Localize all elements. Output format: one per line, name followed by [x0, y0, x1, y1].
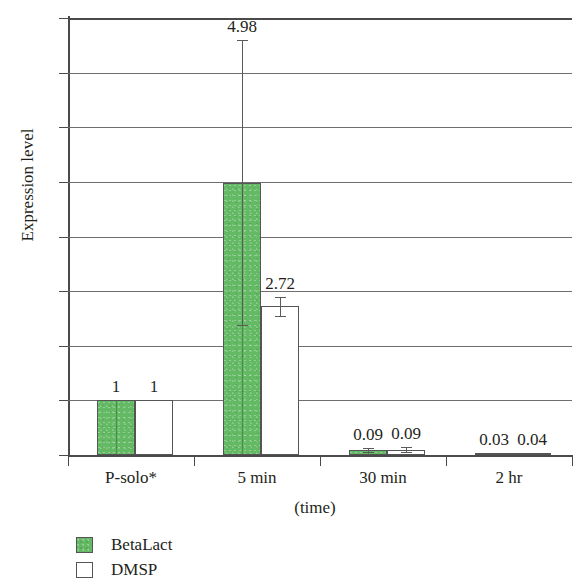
error-cap-betalact-2-low	[363, 452, 374, 453]
bar-betalact-3	[475, 453, 513, 455]
error-cap-dmsp-2-low	[401, 452, 412, 453]
x-tick-1	[194, 455, 195, 466]
x-tick-3	[446, 455, 447, 466]
error-bar-betalact-1	[242, 40, 243, 325]
x-category-label-3: 2 hr	[446, 468, 572, 488]
legend-item-betalact: BetaLact	[76, 532, 172, 557]
y-tick-mark-7	[59, 73, 68, 74]
x-tick-0	[68, 455, 69, 466]
x-category-label-0: P-solo*	[68, 468, 194, 488]
y-tick-mark-8	[59, 18, 68, 19]
error-bar-dmsp-1	[280, 297, 281, 316]
x-tick-2	[320, 455, 321, 466]
x-axis-title: (time)	[0, 498, 582, 518]
bar-dmsp-0	[135, 400, 173, 455]
data-label-dmsp-1: 2.72	[250, 275, 310, 292]
error-cap-betalact-2-high	[363, 448, 374, 449]
legend: BetaLact DMSP	[76, 532, 172, 582]
data-label-betalact-1: 4.98	[212, 18, 272, 35]
error-cap-dmsp-1-low	[275, 316, 286, 317]
bar-chart-figure: Expression level 012345678 114.982.720.0…	[0, 0, 582, 585]
data-label-dmsp-3: 0.04	[502, 431, 562, 448]
y-tick-mark-1	[59, 400, 68, 401]
y-tick-mark-4	[59, 237, 68, 238]
y-axis-title: Expression level	[18, 95, 38, 275]
bar-betalact-0	[97, 400, 135, 455]
bar-dmsp-1	[261, 306, 299, 455]
error-cap-dmsp-2-high	[401, 447, 412, 448]
error-cap-dmsp-1-high	[275, 297, 286, 298]
data-label-dmsp-2: 0.09	[376, 425, 436, 442]
y-tick-mark-0	[59, 455, 68, 456]
legend-label-dmsp: DMSP	[111, 561, 157, 578]
y-tick-mark-2	[59, 346, 68, 347]
legend-item-dmsp: DMSP	[76, 557, 172, 582]
bar-dmsp-3	[513, 453, 551, 455]
x-category-label-2: 30 min	[320, 468, 446, 488]
legend-label-betalact: BetaLact	[111, 536, 172, 553]
legend-swatch-dmsp	[76, 562, 93, 578]
x-category-label-1: 5 min	[194, 468, 320, 488]
y-tick-mark-3	[59, 291, 68, 292]
error-cap-betalact-1-high	[237, 40, 248, 41]
x-axis-title-text: (time)	[294, 498, 336, 517]
y-tick-mark-6	[59, 127, 68, 128]
x-tick-end	[572, 455, 573, 466]
error-cap-betalact-1-low	[237, 325, 248, 326]
y-tick-mark-5	[59, 182, 68, 183]
legend-swatch-betalact	[76, 537, 93, 553]
data-label-dmsp-0: 1	[124, 378, 184, 395]
